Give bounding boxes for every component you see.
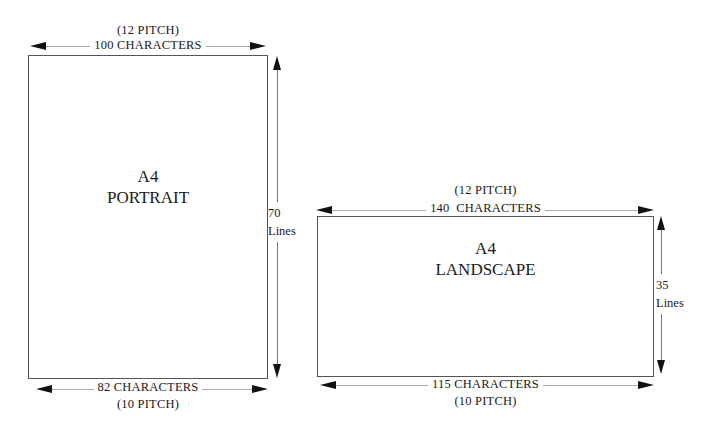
portrait-bottom-chars: 82 CHARACTERS — [94, 380, 203, 394]
arrowhead-up-icon — [273, 56, 281, 70]
portrait-bottom-pitch: (10 PITCH) — [28, 397, 268, 412]
landscape-title: A4 LANDSCAPE — [317, 238, 654, 280]
portrait-page — [28, 55, 268, 379]
portrait-top-chars: 100 CHARACTERS — [90, 38, 205, 52]
landscape-top-pitch: (12 PITCH) — [317, 183, 654, 198]
portrait-title-orientation: PORTRAIT — [28, 187, 268, 208]
portrait-lines-label: Lines — [268, 222, 296, 240]
arrowhead-down-icon — [657, 360, 665, 374]
portrait-top-pitch: (12 PITCH) — [28, 23, 268, 38]
portrait-title-size: A4 — [28, 166, 268, 187]
landscape-top-chars: 140 CHARACTERS — [426, 201, 545, 215]
landscape-title-orientation: LANDSCAPE — [317, 259, 654, 280]
landscape-title-size: A4 — [317, 238, 654, 259]
arrowhead-down-icon — [273, 364, 281, 378]
landscape-bottom-chars: 115 CHARACTERS — [428, 377, 543, 391]
landscape-lines-label: Lines — [656, 294, 684, 312]
landscape-lines-count: 35 — [656, 276, 684, 294]
portrait-lines-count: 70 — [268, 204, 296, 222]
arrowhead-up-icon — [657, 216, 665, 230]
portrait-title: A4 PORTRAIT — [28, 166, 268, 208]
landscape-bottom-pitch: (10 PITCH) — [317, 394, 654, 409]
